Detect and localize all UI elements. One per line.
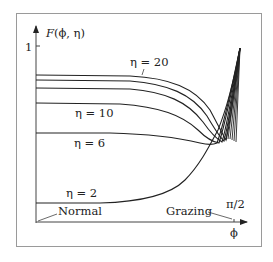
label-normal: Normal <box>58 204 102 218</box>
label-eta-6: η = 6 <box>74 136 105 150</box>
x-tick-label-pi-over-2: π/2 <box>226 197 245 211</box>
y-tick-label-1: 1 <box>25 40 32 54</box>
plot-canvas: F(ϕ, η) 1 η = 20 η = 10 η = 6 η = 2 Norm… <box>0 0 273 262</box>
curves <box>36 48 240 203</box>
x-axis-label: ϕ <box>230 226 238 240</box>
eta-20-leader <box>142 69 144 75</box>
label-eta-10: η = 10 <box>75 106 113 120</box>
label-eta-2: η = 2 <box>66 186 97 200</box>
normal-leader <box>38 214 57 221</box>
label-eta-20: η = 20 <box>130 55 168 69</box>
label-grazing: Grazing <box>166 204 213 218</box>
figure: F(ϕ, η) 1 η = 20 η = 10 η = 6 η = 2 Norm… <box>0 0 273 262</box>
curve-eta-2 <box>36 48 240 203</box>
y-axis-label: F(ϕ, η) <box>45 26 85 40</box>
spike-bundle <box>226 48 240 142</box>
